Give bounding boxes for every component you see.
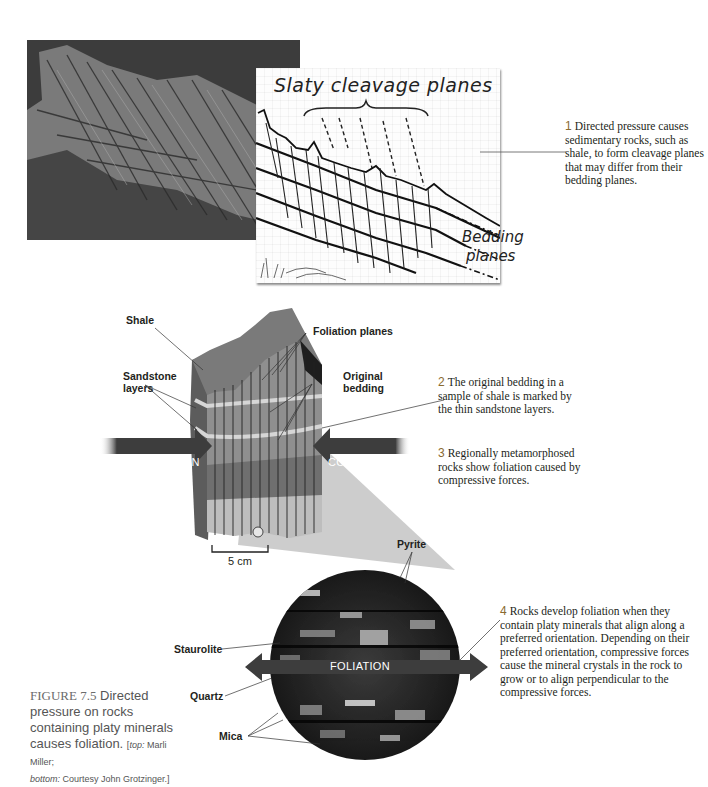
callout-3-text: Regionally metamorphosed rocks show foli…: [438, 447, 580, 486]
compression-left-label: COMPRESSION: [114, 456, 200, 468]
bedding-planes-label: Bedding planes: [462, 228, 524, 266]
callout-1-text: Directed pressure causes sedimentary roc…: [565, 120, 704, 186]
sample-location-icon: [253, 527, 263, 537]
callout-1: 1Directed pressure causes sedimentary ro…: [565, 120, 705, 188]
label-foliation-planes: Foliation planes: [313, 325, 393, 337]
callout-3-number: 3: [438, 446, 445, 460]
callout-4: 4Rocks develop foliation when they conta…: [500, 605, 695, 700]
credit-bottom-label: bottom:: [30, 774, 60, 784]
credit-top-label: top:: [129, 740, 144, 750]
callout-4-text: Rocks develop foliation when they contai…: [500, 605, 689, 698]
label-pyrite: Pyrite: [397, 538, 426, 550]
label-quartz: Quartz: [190, 690, 223, 702]
figure-number: FIGURE 7.5: [30, 688, 96, 703]
label-original-line1: Original: [343, 370, 384, 382]
callout-4-number: 4: [500, 604, 507, 618]
foliation-label: FOLIATION: [330, 660, 390, 672]
callout-2-text: The original bedding in a sample of shal…: [438, 376, 572, 415]
brace-icon: [304, 101, 428, 116]
label-mica: Mica: [219, 730, 242, 742]
label-shale: Shale: [126, 314, 154, 326]
label-original-bedding: Original bedding: [343, 370, 384, 394]
callout-2: 2The original bedding in a sample of sha…: [438, 376, 588, 417]
callout-1-leader: [480, 150, 570, 154]
callout-3: 3Regionally metamorphosed rocks show fol…: [438, 447, 588, 488]
label-staurolite: Staurolite: [174, 643, 222, 655]
callout-1-number: 1: [565, 119, 572, 133]
credit-bottom: Courtesy John Grotzinger.: [63, 774, 168, 784]
label-original-line2: bedding: [343, 382, 384, 394]
label-sandstone-line2: layers: [123, 382, 177, 394]
figure-caption: FIGURE 7.5 Directed pressure on rocks co…: [30, 688, 190, 787]
bedding-label-line2: planes: [462, 247, 524, 266]
label-sandstone-layers: Sandstone layers: [123, 370, 177, 394]
scale-label: 5 cm: [228, 555, 252, 567]
sketch-title: Slaty cleavage planes: [274, 74, 493, 96]
compression-right-label: COMPRESSION: [328, 456, 414, 468]
label-sandstone-line1: Sandstone: [123, 370, 177, 382]
callout-2-number: 2: [438, 375, 445, 389]
bedding-label-line1: Bedding: [462, 228, 524, 247]
